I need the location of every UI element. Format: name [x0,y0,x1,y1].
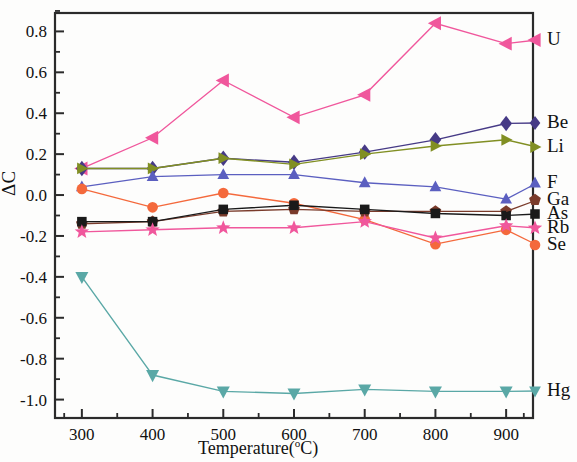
series-line [82,189,506,244]
legend-label-li: Li [547,135,564,156]
data-point-marker [530,116,541,130]
data-point-marker [358,384,371,396]
data-point-marker [145,131,158,145]
data-point-marker [529,177,541,188]
data-point-marker [528,220,542,234]
chart-figure: 0.80.60.40.20.0-0.2-0.4-0.6-0.8-1.0 3004… [0,0,577,462]
y-tick-label: -0.4 [20,268,47,287]
x-axis-label: Temperature(oC) [198,437,318,459]
series-line [82,23,506,168]
y-tick-label: -1.0 [20,391,47,410]
y-tick-label: 0.0 [26,186,47,205]
x-axis-label-prefix: Temperature( [198,438,295,458]
data-point-marker [147,202,158,213]
series-hg [75,272,512,401]
data-point-marker [287,220,301,234]
data-point-marker [219,205,229,215]
x-tick-label: 900 [493,425,519,444]
y-tick-label: -0.2 [20,227,47,246]
data-point-marker [286,110,299,124]
data-point-marker [530,141,541,153]
data-point-marker [216,220,230,234]
data-point-marker [145,222,159,236]
y-tick-label: 0.8 [26,22,47,41]
y-tick-label: -0.8 [20,350,47,369]
x-tick-label: 800 [423,425,449,444]
x-tick-label: 700 [352,425,378,444]
data-point-marker [217,168,229,179]
data-point-marker [529,194,541,205]
y-axis-ticks: 0.80.60.40.20.0-0.2-0.4-0.6-0.8-1.0 [20,11,64,410]
legend-label-se: Se [547,233,566,254]
plot-frame [55,13,533,418]
data-point-marker [77,184,88,195]
data-point-marker [530,240,541,251]
series-se [77,184,512,250]
line-chart-canvas: 0.80.60.40.20.0-0.2-0.4-0.6-0.8-1.0 3004… [0,0,577,462]
data-point-marker [358,214,372,228]
legend-label-u: U [547,28,561,49]
data-point-marker [218,188,229,199]
data-point-marker [289,201,299,211]
data-point-marker [360,205,370,215]
data-point-marker [529,387,541,398]
series-rb [75,214,514,244]
y-tick-label: 0.4 [26,104,48,123]
data-point-marker [429,386,442,398]
y-tick-label: 0.2 [26,145,47,164]
data-point-marker [75,224,89,238]
chart-legend: UBeLiFGaAsRbSeHg [506,28,571,400]
y-tick-label: 0.6 [26,63,47,82]
series-line [82,277,506,394]
data-point-marker [430,180,442,191]
data-point-marker [530,209,540,219]
data-point-marker [217,386,230,398]
series-u [74,16,511,175]
data-point-marker [287,388,300,400]
x-axis-label-suffix: C) [300,438,318,458]
legend-label-be: Be [547,111,568,132]
x-tick-label: 300 [69,425,95,444]
data-point-marker [500,386,513,398]
y-axis-label: ΔC [0,171,20,196]
x-tick-label: 400 [140,425,166,444]
legend-label-hg: Hg [547,379,571,400]
y-tick-label: -0.6 [20,309,47,328]
data-series-group [74,16,513,400]
data-point-marker [431,209,441,219]
data-point-marker [357,88,370,102]
